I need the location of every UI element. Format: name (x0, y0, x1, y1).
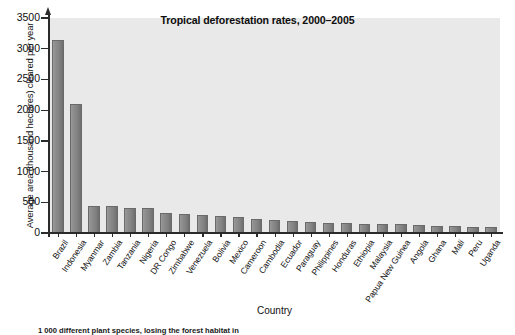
x-axis-tick (293, 233, 294, 237)
x-axis-tick (383, 233, 384, 237)
x-axis-tick (166, 233, 167, 237)
x-axis-tick (365, 233, 366, 237)
x-axis-tick (76, 233, 77, 237)
x-axis-tick (275, 233, 276, 237)
x-axis-tick (401, 233, 402, 237)
y-axis-tick-label: 1000 (0, 165, 40, 177)
x-axis-tick (130, 233, 131, 237)
x-axis-tick (329, 233, 330, 237)
y-axis-tick-label: 3500 (0, 11, 40, 23)
y-axis-tick-label: 500 (0, 195, 40, 207)
figure-caption: 1 000 different plant species, losing th… (38, 326, 511, 335)
y-axis-tick (41, 140, 48, 141)
y-axis-tick (41, 17, 48, 18)
y-axis-tick (41, 232, 48, 233)
y-axis-tick-label: 0 (0, 226, 40, 238)
y-axis-tick (41, 171, 48, 172)
x-axis-tick (347, 233, 348, 237)
x-axis-tick (94, 233, 95, 237)
y-axis-tick (41, 110, 48, 111)
x-axis-tick (419, 233, 420, 237)
x-axis-tick (184, 233, 185, 237)
x-axis-tick (256, 233, 257, 237)
y-axis-tick-label: 3000 (0, 42, 40, 54)
x-axis-tick (220, 233, 221, 237)
y-axis-tick-label: 1500 (0, 134, 40, 146)
x-axis-tick (437, 233, 438, 237)
x-axis-tick (238, 233, 239, 237)
x-axis-tick (491, 233, 492, 237)
y-axis-tick-label: 2500 (0, 72, 40, 84)
y-axis-tick (41, 48, 48, 49)
x-axis-tick (311, 233, 312, 237)
x-axis-tick (455, 233, 456, 237)
deforestation-bar-chart-figure: Average area (thousand hectares) cleared… (0, 0, 515, 335)
y-axis-tick (41, 202, 48, 203)
x-axis-tick (58, 233, 59, 237)
x-axis-tick (473, 233, 474, 237)
x-axis-tick (112, 233, 113, 237)
y-axis-tick (41, 79, 48, 80)
x-axis-title: Country (49, 305, 500, 316)
y-axis-ticks: 0500100015002000250030003500 (0, 0, 515, 335)
x-axis-tick (202, 233, 203, 237)
y-axis-tick-label: 2000 (0, 103, 40, 115)
x-axis-tick (148, 233, 149, 237)
